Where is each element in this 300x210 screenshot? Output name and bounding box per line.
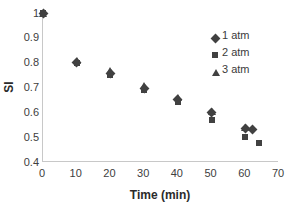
diamond-glyph-icon [211,33,221,43]
square-marker-icon [242,134,248,140]
legend: 1 atm2 atm3 atm [206,26,280,77]
triangle-marker-icon [106,67,114,74]
x-axis-title: Time (min) [42,188,278,202]
x-axis-tick-label: 70 [263,168,293,179]
x-axis-tick-label: 40 [162,168,192,179]
x-axis-tick-label: 60 [229,168,259,179]
legend-triangle-marker-icon [206,63,218,75]
legend-item-label: 2 atm [222,46,250,58]
x-axis-tick-label: 0 [27,168,57,179]
triangle-marker-icon [140,82,148,89]
triangle-glyph-icon [212,69,220,76]
legend-item[interactable]: 1 atm [206,26,280,43]
triangle-marker-icon [73,57,81,64]
square-glyph-icon [212,52,218,58]
triangle-marker-icon [241,124,249,131]
y-axis-title: SI [2,64,16,110]
legend-item-label: 1 atm [222,29,250,41]
scatter-chart: 0.40.50.60.70.80.91 010203040506070 SI T… [0,0,300,210]
y-axis-tick-label: 0.9 [9,32,39,43]
x-axis-tick-label: 20 [94,168,124,179]
y-axis-tick-label: 0.5 [9,132,39,143]
x-axis-tick-labels: 010203040506070 [42,168,278,182]
triangle-marker-icon [39,10,47,17]
x-axis-tick-label: 10 [61,168,91,179]
legend-square-marker-icon [206,46,218,58]
triangle-marker-icon [174,94,182,101]
y-axis-tick-label: 1 [9,8,39,19]
legend-item-label: 3 atm [222,63,250,75]
square-marker-icon [209,117,215,123]
y-axis-tick-label: 0.4 [9,157,39,168]
triangle-marker-icon [208,108,216,115]
x-axis-tick-label: 30 [128,168,158,179]
legend-diamond-marker-icon [206,29,218,41]
legend-item[interactable]: 3 atm [206,60,280,77]
legend-item[interactable]: 2 atm [206,43,280,60]
x-axis-tick-label: 50 [196,168,226,179]
square-marker-icon [256,140,262,146]
